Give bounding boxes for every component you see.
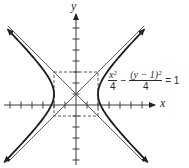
x-axis-label: x xyxy=(160,96,165,111)
minus-operator: − xyxy=(120,75,126,86)
fraction-2-numerator: (y − 1)² xyxy=(129,69,162,81)
left-branch-upper xyxy=(8,29,54,94)
fraction-1-numerator: x² xyxy=(108,69,117,81)
fraction-1-denominator: 4 xyxy=(110,81,116,92)
left-branch-lower xyxy=(4,94,54,162)
equation-rhs: = 1 xyxy=(165,75,179,86)
right-branch-lower xyxy=(98,94,148,162)
equation-label: x² 4 − (y − 1)² 4 = 1 xyxy=(107,69,181,92)
y-axis-label: y xyxy=(71,0,76,14)
fraction-1: x² 4 xyxy=(108,69,117,92)
fraction-2-denominator: 4 xyxy=(143,81,149,92)
fraction-2: (y − 1)² 4 xyxy=(129,69,162,92)
